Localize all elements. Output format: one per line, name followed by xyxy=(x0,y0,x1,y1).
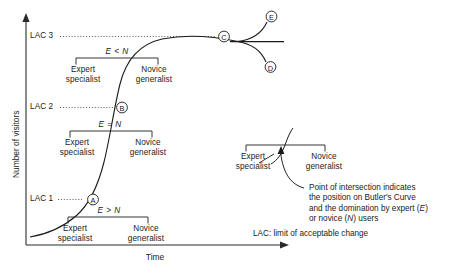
bracket-key-left-line2: specialist xyxy=(236,162,271,171)
bracket-en-greater-right-line1: Novice xyxy=(133,224,159,233)
intersection-annotation-line4: or novice (N) users xyxy=(309,214,428,224)
intersection-annotation-line1: Point of intersection indicates xyxy=(309,183,428,193)
bracket-en-greater-left-line1: Expert xyxy=(63,224,87,233)
bracket-key-right-line1: Novice xyxy=(311,152,337,161)
bracket-en-equal-left-label: Expert specialist xyxy=(48,138,106,157)
intersection-line4-suffix: ) users xyxy=(353,214,378,223)
intersection-line4-prefix: or novice ( xyxy=(309,214,347,223)
axis-group xyxy=(22,13,289,249)
lac3-label: LAC 3 xyxy=(30,31,53,41)
bracket-en-less-right-line1: Novice xyxy=(141,65,167,74)
bracket-en-greater-path xyxy=(68,217,148,224)
branch-e-curve xyxy=(237,22,267,42)
bracket-en-less-right-label: Novice generalist xyxy=(125,65,183,84)
bracket-key-left-line1: Expert xyxy=(241,152,265,161)
bracket-en-less-left-label: Expert specialist xyxy=(54,65,112,84)
lac2-label: LAC 2 xyxy=(30,102,53,112)
lac-reference-lines xyxy=(58,37,216,200)
bracket-en-greater-right-label: Novice generalist xyxy=(117,224,175,243)
node-label-d: D xyxy=(268,63,273,72)
node-label-a: A xyxy=(91,196,96,205)
bracket-en-less-right-line2: generalist xyxy=(136,75,172,84)
node-markers xyxy=(88,11,277,205)
bracket-en-equal-right-line1: Novice xyxy=(135,138,161,147)
butlers-curve-group xyxy=(30,22,284,237)
bracket-key-right-line2: generalist xyxy=(306,162,342,171)
x-axis-label: Time xyxy=(146,252,164,262)
bracket-en-less-path xyxy=(76,58,158,65)
bracket-key-right-label: Novice generalist xyxy=(295,152,353,171)
bracket-en-greater-relation: E > N xyxy=(97,206,120,216)
intersection-annotation-line2: the position on Butler's Curve xyxy=(309,193,428,203)
bracket-en-equal-right-label: Novice generalist xyxy=(119,138,177,157)
bracket-en-equal-left-line2: specialist xyxy=(60,148,95,157)
bracket-key-path xyxy=(246,145,325,152)
bracket-en-greater-left-line2: specialist xyxy=(58,234,93,243)
bracket-en-equal-left-line1: Expert xyxy=(65,138,89,147)
intersection-annotation-line3: and the domination by expert (E) xyxy=(309,204,428,214)
bracket-en-equal-relation: E = N xyxy=(98,120,121,130)
x-axis-arrowhead xyxy=(280,241,289,248)
butlers-curve-figure: Number of visitors Time LAC 3 LAC 2 LAC … xyxy=(0,0,459,273)
y-axis-arrowhead xyxy=(22,13,29,22)
bracket-en-less-left-line1: Expert xyxy=(71,65,95,74)
node-label-c: C xyxy=(221,33,226,42)
node-label-b: B xyxy=(120,104,125,113)
bracket-key-left-label: Expert specialist xyxy=(224,152,282,171)
branch-d-curve xyxy=(237,42,266,63)
node-label-e: E xyxy=(269,13,274,22)
bracket-en-less-left-line2: specialist xyxy=(66,75,101,84)
bracket-en-less-relation: E < N xyxy=(105,47,128,57)
lac1-label: LAC 1 xyxy=(30,194,53,204)
bracket-en-greater-right-line2: generalist xyxy=(128,234,164,243)
bracket-en-greater-left-label: Expert specialist xyxy=(46,224,104,243)
bracket-en-equal-path xyxy=(70,131,152,138)
y-axis-label: Number of visitors xyxy=(11,111,21,178)
intersection-line3-prefix: and the domination by expert ( xyxy=(309,204,420,213)
lac-key-text: LAC: limit of acceptable change xyxy=(253,229,368,239)
intersection-line3-suffix: ) xyxy=(425,204,428,213)
bracket-en-equal-right-line2: generalist xyxy=(130,148,166,157)
intersection-annotation: Point of intersection indicates the posi… xyxy=(309,183,428,225)
